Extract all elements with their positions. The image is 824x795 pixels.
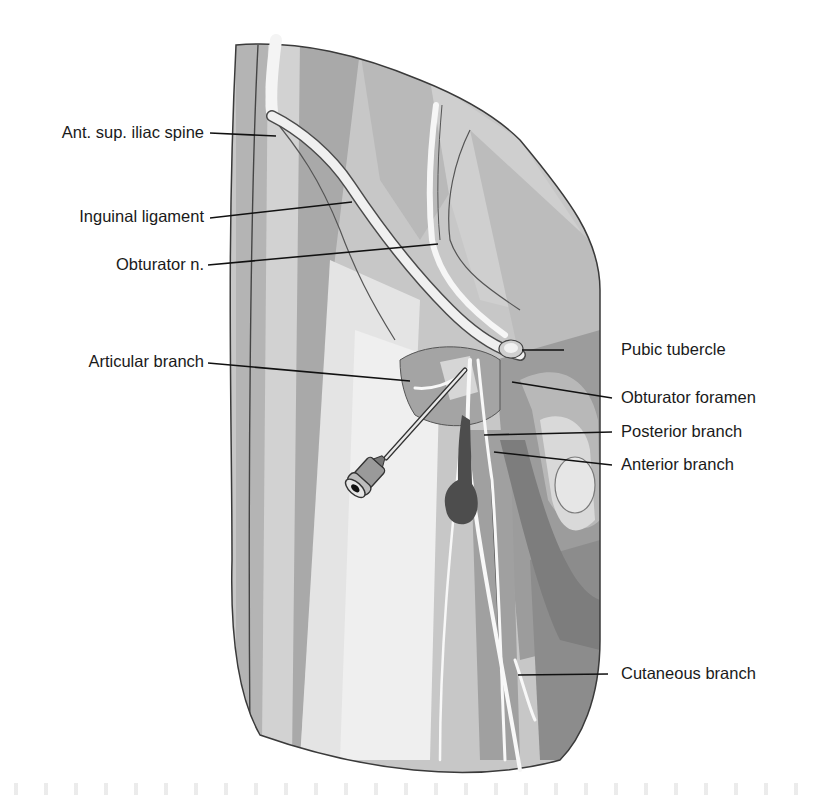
label-pubic-tubercle: Pubic tubercle (621, 341, 726, 358)
label-anterior-branch: Anterior branch (621, 456, 734, 473)
label-cutaneous-branch: Cutaneous branch (621, 665, 756, 682)
label-obturator-nerve: Obturator n. (32, 256, 204, 273)
label-articular-branch: Articular branch (32, 353, 204, 370)
label-posterior-branch: Posterior branch (621, 423, 742, 440)
label-ant-sup-iliac-spine: Ant. sup. iliac spine (32, 124, 204, 141)
label-inguinal-ligament: Inguinal ligament (32, 208, 204, 225)
label-obturator-foramen: Obturator foramen (621, 389, 756, 406)
thigh-region (220, 30, 620, 790)
pubic-tubercle (499, 340, 523, 358)
cropped-caption-text (0, 783, 824, 795)
